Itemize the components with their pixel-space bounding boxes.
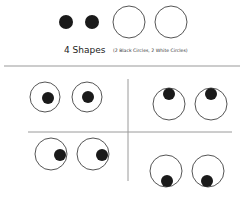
- pupil: [42, 92, 54, 104]
- white-circle-icon: [155, 6, 187, 38]
- pupil: [54, 149, 66, 161]
- panel-eyes-down: [150, 155, 224, 187]
- subtitle-label: (2 Black Circles, 2 White Circles): [113, 48, 188, 53]
- black-circle-icon: [59, 15, 73, 29]
- pupil: [96, 149, 108, 161]
- googly-eye-icon: [153, 88, 185, 120]
- googly-eyes-diagram: 4 Shapes (2 Black Circles, 2 White Circl…: [0, 0, 250, 198]
- googly-eye-icon: [35, 138, 67, 170]
- panel-eyes-right: [35, 138, 109, 170]
- pupil: [205, 88, 217, 100]
- black-circle-icon: [85, 15, 99, 29]
- googly-eye-icon: [72, 82, 102, 112]
- title-label: 4 Shapes: [64, 45, 106, 55]
- legend-shapes: [59, 6, 187, 38]
- pupil: [201, 175, 213, 187]
- googly-eye-icon: [195, 88, 227, 120]
- panel-eyes-up: [153, 88, 227, 120]
- panel-eyes-center: [30, 82, 102, 112]
- googly-eye-icon: [150, 155, 182, 187]
- pupil: [163, 88, 175, 100]
- googly-eye-icon: [192, 155, 224, 187]
- googly-eye-icon: [30, 82, 60, 112]
- white-circle-icon: [113, 6, 145, 38]
- pupil: [161, 175, 173, 187]
- googly-eye-icon: [77, 138, 109, 170]
- pupil: [82, 91, 94, 103]
